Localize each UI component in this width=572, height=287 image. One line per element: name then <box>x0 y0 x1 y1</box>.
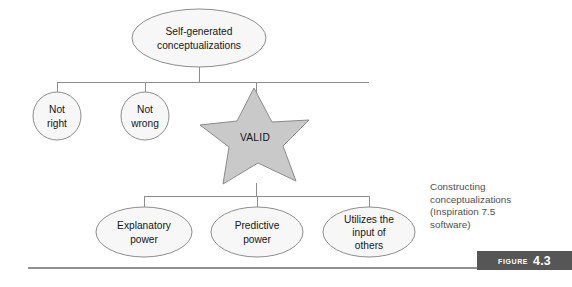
caption-line-2: conceptualizations <box>430 194 566 207</box>
figure-number-badge: Figure 4.3 <box>477 251 572 270</box>
utilizes-input-label-line-3: others <box>355 240 383 251</box>
valid-label: VALID <box>240 132 270 143</box>
caption-line-1: Constructing <box>430 181 566 194</box>
not-right-label-line-1: Not <box>49 104 65 115</box>
not-right-label-line-2: right <box>47 118 67 129</box>
root-label-line-1: Self-generated <box>166 26 233 37</box>
node-explanatory-power[interactable]: Explanatory power <box>96 207 192 257</box>
figure-container: Self-generated conceptualizations Not ri… <box>0 0 572 287</box>
concept-map-diagram: Self-generated conceptualizations Not ri… <box>0 0 572 287</box>
not-wrong-label-line-2: wrong <box>130 118 159 129</box>
explanatory-power-ellipse-shape <box>96 207 192 257</box>
figure-caption: Constructing conceptualizations (Inspira… <box>430 181 566 231</box>
predictive-power-label-line-2: power <box>243 234 271 245</box>
predictive-power-ellipse-shape <box>211 207 303 257</box>
node-valid[interactable]: VALID <box>200 88 309 184</box>
utilizes-input-label-line-1: Utilizes the <box>344 214 394 225</box>
explanatory-power-label-line-1: Explanatory <box>117 220 172 231</box>
figure-badge-number: 4.3 <box>533 254 551 268</box>
root-ellipse-shape <box>132 9 266 67</box>
root-label-line-2: conceptualizations <box>157 40 241 51</box>
not-wrong-circle-shape <box>121 92 169 140</box>
not-wrong-label-line-1: Not <box>137 104 153 115</box>
not-right-circle-shape <box>33 92 81 140</box>
caption-line-3: (Inspiration 7.5 <box>430 206 566 219</box>
figure-badge-word: Figure <box>498 255 528 266</box>
explanatory-power-label-line-2: power <box>130 234 158 245</box>
connector-group <box>57 67 369 208</box>
node-not-wrong[interactable]: Not wrong <box>121 92 169 140</box>
node-self-generated-conceptualizations[interactable]: Self-generated conceptualizations <box>132 9 266 67</box>
node-not-right[interactable]: Not right <box>33 92 81 140</box>
node-predictive-power[interactable]: Predictive power <box>211 207 303 257</box>
predictive-power-label-line-1: Predictive <box>235 220 280 231</box>
caption-line-4: software) <box>430 219 566 232</box>
utilizes-input-label-line-2: input of <box>352 227 386 238</box>
node-utilizes-input-of-others[interactable]: Utilizes the input of others <box>323 207 415 257</box>
